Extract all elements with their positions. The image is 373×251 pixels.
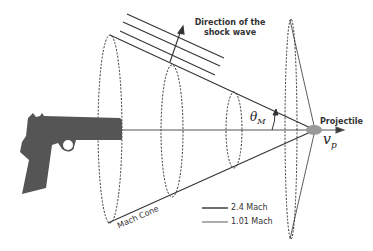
pistol-silhouette [20,113,122,194]
mach-cone-2-4 [108,35,315,223]
theta-m-label: θM [250,112,265,127]
velocity-label: vp [323,134,337,150]
legend-lines [202,208,228,222]
legend-item-1-01-mach: 1.01 Mach [231,217,273,227]
legend-item-2-4-mach: 2.4 Mach [231,203,268,213]
projectile-label: Projectile [320,117,363,127]
theta-angle-arc [272,109,278,130]
mach-cone-diagram [0,0,373,251]
shock-direction-label: Direction of the shock wave [192,18,268,38]
